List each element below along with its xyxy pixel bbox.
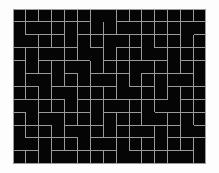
maze-image-canvas bbox=[0, 0, 219, 173]
maze-walls-svg bbox=[13, 9, 207, 164]
maze-grid bbox=[13, 9, 207, 164]
